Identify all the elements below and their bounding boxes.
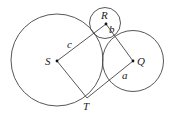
label-R: R	[100, 9, 108, 21]
label-Q: Q	[137, 55, 145, 67]
point-R	[105, 23, 108, 26]
segment-TS	[57, 61, 87, 98]
point-S	[56, 60, 59, 63]
label-S: S	[45, 55, 51, 67]
label-b: b	[109, 23, 115, 35]
diagram-canvas: R b c S Q a T	[0, 0, 174, 117]
label-a: a	[122, 69, 128, 81]
tangent-circles-diagram: R b c S Q a T	[0, 0, 174, 117]
label-c: c	[67, 38, 72, 50]
label-T: T	[83, 100, 90, 112]
point-Q	[132, 60, 135, 63]
segment-SR	[57, 24, 106, 61]
